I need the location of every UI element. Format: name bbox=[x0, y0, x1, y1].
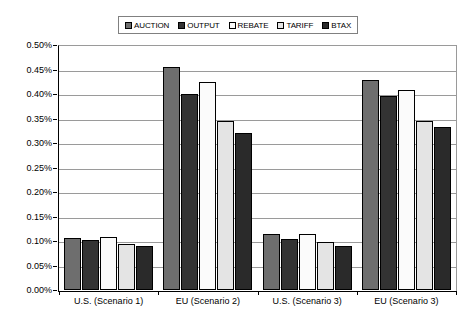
x-tick-mark bbox=[158, 291, 159, 295]
legend-entry-tariff[interactable]: TARIFF bbox=[277, 21, 313, 30]
chart-legend: AUCTIONOUTPUTREBATETARIFFBTAX bbox=[118, 16, 358, 34]
x-tick-mark bbox=[456, 291, 457, 295]
legend-swatch-icon bbox=[229, 22, 236, 29]
y-tick-mark bbox=[53, 266, 57, 267]
bar-auction[interactable] bbox=[163, 67, 180, 290]
bar-output[interactable] bbox=[181, 94, 198, 290]
y-tick-mark bbox=[53, 241, 57, 242]
bar-output[interactable] bbox=[82, 240, 99, 290]
legend-swatch-icon bbox=[178, 22, 185, 29]
x-axis-category-label: U.S. (Scenario 3) bbox=[258, 296, 357, 307]
bar-output[interactable] bbox=[380, 96, 397, 290]
legend-swatch-icon bbox=[125, 22, 132, 29]
y-tick-mark bbox=[53, 45, 57, 46]
x-axis-labels: U.S. (Scenario 1)EU (Scenario 2)U.S. (Sc… bbox=[59, 296, 456, 307]
bar-chart: AUCTIONOUTPUTREBATETARIFFBTAX 0.50%0.45%… bbox=[0, 0, 472, 320]
bar-tariff[interactable] bbox=[217, 121, 234, 290]
y-tick-mark bbox=[53, 70, 57, 71]
bar-group bbox=[59, 45, 158, 290]
x-tick-mark bbox=[357, 291, 358, 295]
bar-btax[interactable] bbox=[136, 246, 153, 290]
x-axis-category-label: EU (Scenario 3) bbox=[357, 296, 456, 307]
bars-layer bbox=[59, 45, 456, 290]
x-axis-category-label: EU (Scenario 2) bbox=[158, 296, 257, 307]
y-tick-mark bbox=[53, 143, 57, 144]
y-tick-mark bbox=[53, 192, 57, 193]
x-tick-mark bbox=[59, 291, 60, 295]
y-tick-mark bbox=[53, 119, 57, 120]
legend-entry-rebate[interactable]: REBATE bbox=[229, 21, 269, 30]
bar-group bbox=[158, 45, 257, 290]
bar-auction[interactable] bbox=[64, 238, 81, 290]
legend-label: AUCTION bbox=[134, 21, 169, 30]
bar-output[interactable] bbox=[281, 239, 298, 290]
y-axis-tick-marks bbox=[0, 45, 58, 290]
bar-btax[interactable] bbox=[335, 246, 352, 290]
bar-group bbox=[258, 45, 357, 290]
bar-tariff[interactable] bbox=[317, 242, 334, 290]
bar-rebate[interactable] bbox=[199, 82, 216, 290]
x-axis-category-label: U.S. (Scenario 1) bbox=[59, 296, 158, 307]
legend-swatch-icon bbox=[277, 22, 284, 29]
y-tick-mark bbox=[53, 290, 57, 291]
legend-label: BTAX bbox=[331, 21, 351, 30]
y-tick-mark bbox=[53, 217, 57, 218]
bar-rebate[interactable] bbox=[299, 234, 316, 290]
legend-swatch-icon bbox=[322, 22, 329, 29]
bar-auction[interactable] bbox=[362, 80, 379, 290]
bar-tariff[interactable] bbox=[416, 121, 433, 290]
bar-tariff[interactable] bbox=[118, 244, 135, 290]
legend-entry-auction[interactable]: AUCTION bbox=[125, 21, 169, 30]
y-tick-mark bbox=[53, 94, 57, 95]
bar-rebate[interactable] bbox=[398, 90, 415, 290]
legend-entry-btax[interactable]: BTAX bbox=[322, 21, 351, 30]
bar-rebate[interactable] bbox=[100, 237, 117, 290]
bar-btax[interactable] bbox=[235, 133, 252, 290]
legend-label: REBATE bbox=[238, 21, 269, 30]
bar-auction[interactable] bbox=[263, 234, 280, 290]
y-tick-mark bbox=[53, 168, 57, 169]
legend-entry-output[interactable]: OUTPUT bbox=[178, 21, 219, 30]
legend-label: TARIFF bbox=[286, 21, 313, 30]
x-tick-mark bbox=[258, 291, 259, 295]
bar-group bbox=[357, 45, 456, 290]
legend-label: OUTPUT bbox=[187, 21, 219, 30]
bar-btax[interactable] bbox=[434, 127, 451, 290]
